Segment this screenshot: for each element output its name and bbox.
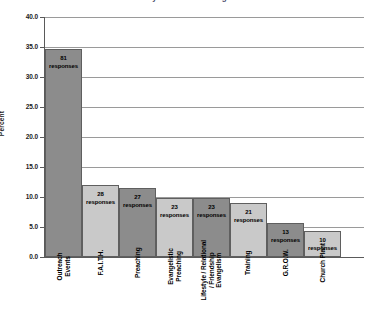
x-axis-category-label: G.R.O.W.: [267, 259, 304, 325]
y-axis-tick-mark: [40, 17, 44, 18]
bar-unit-label: responses: [120, 201, 155, 209]
bar-series: 81responses28responses27responses23respo…: [45, 17, 341, 257]
x-axis-category-label: Training: [230, 259, 267, 325]
bar-unit-label: responses: [83, 198, 118, 206]
y-axis-tick-mark: [40, 77, 44, 78]
y-axis-tick-label: 15.0: [6, 163, 38, 170]
y-axis-tick-label: 0.0: [6, 253, 38, 260]
y-axis-tick-label: 5.0: [6, 223, 38, 230]
y-axis-tick-label: 10.0: [6, 193, 38, 200]
bar-unit-label: responses: [194, 211, 229, 219]
y-axis-title: Percent: [0, 111, 5, 136]
bar-value-label: 23: [157, 203, 192, 211]
bar-value-label: 23: [194, 203, 229, 211]
y-axis-tick-mark: [40, 197, 44, 198]
chart-title: Primary Method of Evangelism: [0, 0, 374, 2]
bar-unit-label: responses: [268, 236, 303, 244]
y-axis-tick-label: 40.0: [6, 13, 38, 20]
bar[interactable]: 28responses: [82, 185, 119, 257]
x-axis-category-label: F.A.I.T.H.: [82, 259, 119, 325]
x-axis-category-label: OutreachEvents: [45, 259, 82, 325]
bar-value-label: 13: [268, 228, 303, 236]
bar-value-label: 81: [46, 54, 81, 62]
y-axis-tick-label: 25.0: [6, 103, 38, 110]
bar-unit-label: responses: [157, 211, 192, 219]
bar-value-label: 21: [231, 208, 266, 216]
x-axis-category-label: EvangelisticPreaching: [156, 259, 193, 325]
bar-unit-label: responses: [231, 216, 266, 224]
x-axis-category-label: Preaching: [119, 259, 156, 325]
y-axis-tick-label: 20.0: [6, 133, 38, 140]
y-axis-tick-mark: [40, 137, 44, 138]
bar[interactable]: 21responses: [230, 203, 267, 257]
y-axis-tick-mark: [40, 257, 44, 258]
bar-value-label: 28: [83, 190, 118, 198]
x-axis-category-labels: OutreachEventsF.A.I.T.H.PreachingEvangel…: [45, 259, 341, 326]
x-axis-category-label: Church Plant: [304, 259, 341, 325]
bar-unit-label: responses: [46, 62, 81, 70]
y-axis-tick-mark: [40, 227, 44, 228]
bar-value-label: 27: [120, 193, 155, 201]
y-axis-tick-label: 35.0: [6, 43, 38, 50]
bar-chart: Primary Method of Evangelism Percent 81r…: [0, 0, 374, 326]
x-axis-category-label: Lifestyle / Relational/ FriendshipEvange…: [193, 259, 230, 325]
y-axis-tick-mark: [40, 47, 44, 48]
y-axis-tick-mark: [40, 167, 44, 168]
y-axis-tick-label: 30.0: [6, 73, 38, 80]
bar[interactable]: 81responses: [45, 49, 82, 257]
y-axis-tick-mark: [40, 107, 44, 108]
